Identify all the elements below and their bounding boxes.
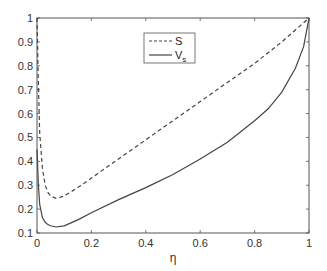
x-tick-label: 1 <box>306 237 312 249</box>
x-tick-label: 0.6 <box>193 237 208 249</box>
y-tick-label: 0.6 <box>18 108 33 120</box>
y-tick-label: 0.7 <box>18 84 33 96</box>
x-tick-label: 0.4 <box>138 237 153 249</box>
legend: S Vs <box>144 33 195 64</box>
legend-label-s: S <box>175 35 182 47</box>
y-tick-label: 1 <box>27 12 33 24</box>
y-tick-label: 0.9 <box>18 36 33 48</box>
y-tick-label: 0.2 <box>18 203 33 215</box>
x-axis-label: η <box>170 251 177 265</box>
y-tick-labels: 0.10.20.30.40.50.60.70.80.91 <box>18 12 33 239</box>
x-tick-label: 0.8 <box>247 237 262 249</box>
x-tick-label: 0 <box>34 237 40 249</box>
y-tick-label: 0.1 <box>18 227 33 239</box>
y-tick-label: 0.8 <box>18 60 33 72</box>
legend-box <box>144 33 195 63</box>
line-chart: 00.20.40.60.81 0.10.20.30.40.50.60.70.80… <box>0 0 327 271</box>
legend-label-vs-subscript: s <box>182 55 186 64</box>
y-tick-label: 0.5 <box>18 131 33 143</box>
x-tick-label: 0.2 <box>84 237 99 249</box>
x-tick-labels: 00.20.40.60.81 <box>34 237 312 249</box>
y-tick-label: 0.4 <box>18 155 33 167</box>
y-tick-label: 0.3 <box>18 179 33 191</box>
